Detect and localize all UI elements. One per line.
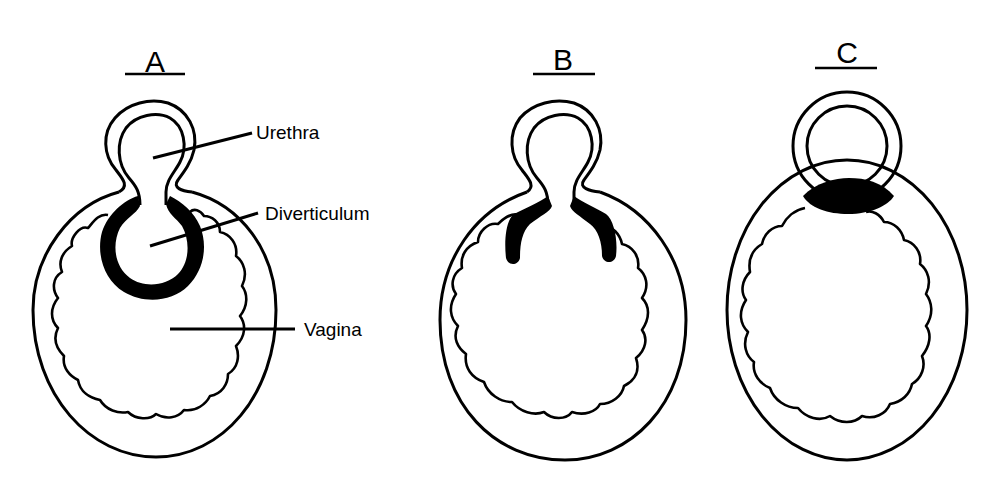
panel-b-label: B <box>553 43 573 76</box>
panel-b-diverticulum-right-flap <box>570 196 617 262</box>
diagram-canvas: A Urethra Diverticulum Vagina B C <box>0 0 987 481</box>
panel-c-urethra-inner <box>807 106 887 186</box>
panel-c-vaginal-lumen <box>741 208 931 422</box>
panel-b-urethra-inner <box>527 115 592 205</box>
panel-c-label: C <box>836 36 858 69</box>
panel-a-diverticulum <box>100 196 204 300</box>
callout-urethra: Urethra <box>256 122 320 143</box>
panel-c-obliterated-cap <box>803 178 894 214</box>
diverticulum-leader-line <box>150 213 258 246</box>
callout-vagina: Vagina <box>304 319 362 340</box>
panel-a-vaginal-lumen <box>52 210 246 418</box>
callout-diverticulum: Diverticulum <box>265 203 370 224</box>
panel-b-vaginal-lumen <box>451 214 648 418</box>
panel-b: B <box>440 43 686 460</box>
urethra-leader-line <box>153 133 252 158</box>
panel-c: C <box>727 36 967 460</box>
panel-b-outer-wall <box>440 192 686 460</box>
panel-a-urethra-inner <box>119 115 184 205</box>
panel-a: A <box>33 45 295 457</box>
panel-a-outer-wall <box>33 192 276 457</box>
panel-b-diverticulum-left-flap <box>505 196 552 264</box>
